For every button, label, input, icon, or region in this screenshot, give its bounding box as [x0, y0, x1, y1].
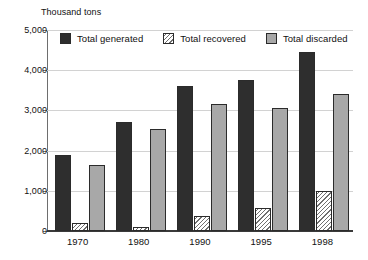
bar-total-generated-1980 — [116, 122, 132, 231]
solid-dark-square-icon — [60, 33, 71, 44]
y-axis-tick-label: 0 — [42, 226, 47, 236]
bar-group — [177, 30, 227, 231]
x-axis-tick-label: 1970 — [47, 236, 108, 247]
legend-item-label: Total recovered — [180, 33, 246, 44]
bar-total-discarded-1998 — [333, 94, 349, 231]
bar-total-generated-1970 — [55, 155, 71, 231]
bar-total-recovered-1970 — [72, 223, 88, 231]
legend-item-label: Total generated — [77, 33, 143, 44]
chart-plot-area — [47, 30, 353, 231]
y-axis-line — [47, 30, 48, 231]
x-axis-tick-label: 1998 — [292, 236, 353, 247]
bar-total-generated-1998 — [299, 52, 315, 231]
solid-gray-square-icon — [266, 33, 277, 44]
legend-item-total-discarded[interactable]: Total discarded — [266, 33, 348, 44]
bar-total-recovered-1980 — [133, 227, 149, 231]
bar-total-generated-1995 — [238, 80, 254, 231]
y-axis-tick-label: 1,000 — [24, 186, 47, 196]
legend-item-total-recovered[interactable]: Total recovered — [163, 33, 246, 44]
bar-total-discarded-1995 — [272, 108, 288, 231]
bar-group — [299, 30, 349, 231]
bar-total-generated-1990 — [177, 86, 193, 231]
bar-total-recovered-1995 — [255, 208, 271, 231]
y-axis-tick-label: 4,000 — [24, 65, 47, 75]
chart-legend: Total generatedTotal recoveredTotal disc… — [60, 33, 348, 44]
y-axis-tick-label: 3,000 — [24, 105, 47, 115]
legend-item-label: Total discarded — [283, 33, 348, 44]
bar-total-discarded-1970 — [89, 165, 105, 231]
y-axis-tick-label: 5,000 — [24, 25, 47, 35]
bar-total-discarded-1980 — [150, 129, 166, 232]
bar-group — [238, 30, 288, 231]
y-axis-units-label: Thousand tons — [41, 7, 101, 17]
legend-item-total-generated[interactable]: Total generated — [60, 33, 143, 44]
bar-group — [116, 30, 166, 231]
y-axis-tick-label: 2,000 — [24, 146, 47, 156]
hatched-white-square-icon — [163, 33, 174, 44]
bar-total-recovered-1990 — [194, 216, 210, 231]
x-axis-tick-label: 1980 — [108, 236, 169, 247]
x-axis-tick-label: 1995 — [231, 236, 292, 247]
bar-total-discarded-1990 — [211, 104, 227, 231]
bar-total-recovered-1998 — [316, 191, 332, 231]
x-axis-tick-label: 1990 — [169, 236, 230, 247]
bar-group — [55, 30, 105, 231]
